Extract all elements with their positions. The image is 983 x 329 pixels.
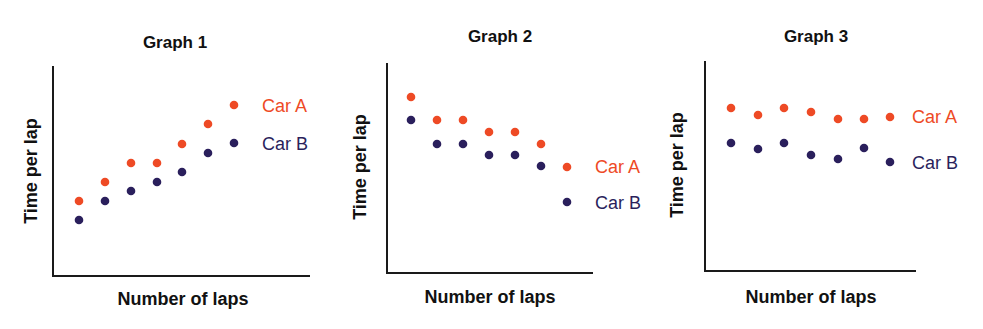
data-point-car-a <box>153 159 162 168</box>
scatter-chart-2: Graph 2Time per lapNumber of lapsCar ACa… <box>350 27 641 307</box>
data-point-car-b <box>153 178 162 187</box>
data-point-car-b <box>433 140 442 149</box>
data-point-car-b <box>75 216 84 225</box>
data-point-car-b <box>807 151 816 160</box>
data-point-car-b <box>178 168 187 177</box>
x-axis-label: Number of laps <box>424 287 555 307</box>
data-point-car-b <box>754 145 763 154</box>
data-point-car-b <box>407 116 416 125</box>
data-point-car-b <box>230 139 239 148</box>
data-point-car-b <box>886 158 895 167</box>
data-point-car-b <box>780 139 789 148</box>
scatter-chart-3: Graph 3Time per lapNumber of lapsCar ACa… <box>667 27 958 307</box>
scatter-chart-1: Graph 1Time per lapNumber of lapsCar ACa… <box>21 33 310 309</box>
data-point-car-b <box>860 144 869 153</box>
data-point-car-a <box>230 101 239 110</box>
data-point-car-a <box>780 104 789 113</box>
data-point-car-a <box>807 108 816 117</box>
data-point-car-a <box>178 140 187 149</box>
data-point-car-a <box>485 128 494 137</box>
legend-car-a: Car A <box>262 96 307 116</box>
data-point-car-a <box>101 178 110 187</box>
legend-car-b: Car B <box>595 193 641 213</box>
data-point-car-a <box>727 104 736 113</box>
data-point-car-a <box>459 116 468 125</box>
data-point-car-b <box>834 155 843 164</box>
data-point-car-b <box>485 151 494 160</box>
legend-car-b: Car B <box>262 134 308 154</box>
data-point-car-a <box>860 115 869 124</box>
data-point-car-a <box>754 111 763 120</box>
data-point-car-b <box>563 198 572 207</box>
y-axis-label: Time per lap <box>350 114 370 220</box>
data-point-car-b <box>127 187 136 196</box>
data-point-car-a <box>537 140 546 149</box>
y-axis-label: Time per lap <box>21 118 41 224</box>
chart-title: Graph 1 <box>143 33 207 52</box>
legend-car-b: Car B <box>912 153 958 173</box>
axes <box>387 63 593 273</box>
data-point-car-b <box>537 162 546 171</box>
data-point-car-b <box>459 140 468 149</box>
data-point-car-b <box>511 151 520 160</box>
data-point-car-a <box>75 197 84 206</box>
data-point-car-a <box>407 93 416 102</box>
data-point-car-a <box>127 159 136 168</box>
chart-title: Graph 3 <box>784 27 848 46</box>
chart-title: Graph 2 <box>468 27 532 46</box>
x-axis-label: Number of laps <box>117 289 248 309</box>
x-axis-label: Number of laps <box>745 287 876 307</box>
data-point-car-a <box>886 113 895 122</box>
data-point-car-a <box>511 128 520 137</box>
data-point-car-a <box>204 120 213 129</box>
y-axis-label: Time per lap <box>667 112 687 218</box>
data-point-car-b <box>727 139 736 148</box>
data-point-car-a <box>433 116 442 125</box>
legend-car-a: Car A <box>912 107 957 127</box>
chart-figure: Graph 1Time per lapNumber of lapsCar ACa… <box>0 0 983 329</box>
axes <box>705 61 916 271</box>
data-point-car-a <box>834 115 843 124</box>
data-point-car-a <box>563 163 572 172</box>
data-point-car-b <box>204 149 213 158</box>
legend-car-a: Car A <box>595 157 640 177</box>
data-point-car-b <box>101 197 110 206</box>
